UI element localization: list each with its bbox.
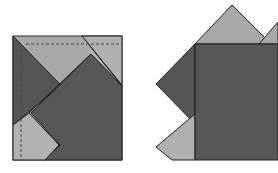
left-dark-diamond — [156, 44, 195, 124]
top-right-light-triangle — [259, 22, 278, 44]
main-dark-square — [195, 44, 278, 160]
fold-diagram-left-svg — [0, 0, 139, 173]
fold-diagram-right-svg — [139, 0, 278, 173]
fold-diagram-step-left — [0, 0, 139, 173]
fold-diagram-step-right — [139, 0, 278, 173]
top-light-triangle — [195, 5, 271, 44]
bottom-left-light-triangle — [156, 114, 195, 160]
